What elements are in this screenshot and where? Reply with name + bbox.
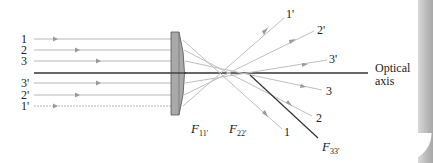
- f11-main: F: [191, 121, 199, 136]
- f33-sub: 33': [330, 147, 339, 156]
- ray-label-3: 3: [21, 55, 27, 67]
- out-label-2-prime: 2': [317, 24, 325, 36]
- focal-label-f33: F33': [322, 140, 339, 158]
- ray-label-1-prime: 1': [21, 100, 29, 112]
- out-label-2: 2: [316, 112, 322, 124]
- out-label-1-prime: 1': [286, 8, 294, 20]
- f11-sub: 11': [199, 129, 208, 138]
- f22-sub: 22': [237, 129, 246, 138]
- optical-axis-label: Optical axis: [375, 62, 410, 88]
- f33-main: F: [322, 139, 330, 154]
- out-label-3: 3: [326, 85, 332, 97]
- out-label-3-prime: 3': [329, 53, 337, 65]
- lens-diagram: 1 2 3 3' 2' 1' 1' 2' 3' 3 2 1 F11' F22' …: [0, 0, 433, 163]
- page-curl: [403, 133, 433, 163]
- focal-label-f11: F11': [191, 122, 208, 140]
- ray-diagram-svg: [0, 0, 433, 163]
- out-label-1: 1: [284, 126, 290, 138]
- f22-main: F: [229, 121, 237, 136]
- optical-axis-label-line2: axis: [375, 75, 410, 88]
- outgoing-arrowheads: [262, 25, 308, 117]
- focal-label-f22: F22': [229, 122, 246, 140]
